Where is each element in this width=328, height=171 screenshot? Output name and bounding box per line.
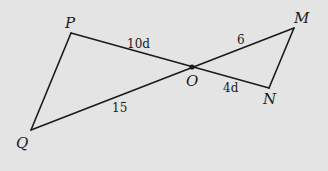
point-label-q: Q: [16, 134, 28, 152]
segment-pq: [31, 33, 71, 130]
point-o-dot: [189, 64, 194, 69]
point-label-o: O: [186, 72, 198, 90]
length-label-po: 10d: [127, 37, 150, 51]
point-label-p: P: [64, 14, 76, 32]
length-label-om: 6: [237, 33, 245, 47]
point-label-m: M: [293, 9, 310, 27]
geometry-diagram: P Q M N O 10d 6 4d 15: [0, 0, 328, 171]
length-label-on: 4d: [223, 81, 239, 95]
point-label-n: N: [262, 90, 277, 108]
length-label-qo: 15: [112, 101, 127, 115]
segment-qm: [31, 28, 294, 130]
